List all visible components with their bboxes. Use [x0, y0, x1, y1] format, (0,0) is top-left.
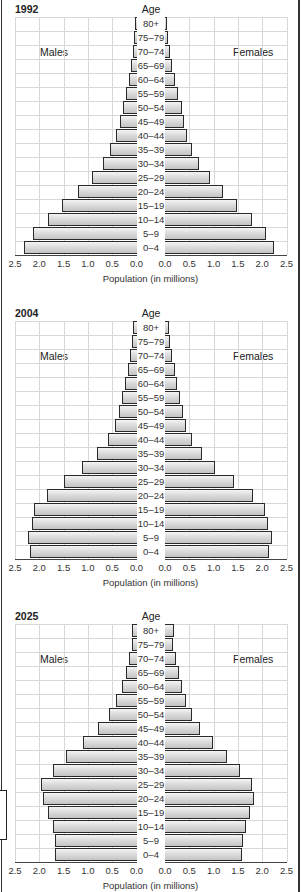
age-group-label: 60–64	[137, 680, 165, 694]
female-bar	[165, 433, 192, 446]
female-bar	[165, 517, 268, 530]
female-bar	[165, 489, 253, 502]
gridline-horizontal	[165, 59, 287, 60]
female-bar	[165, 45, 170, 58]
male-axis-tick: 0.0	[127, 562, 147, 573]
male-bar	[116, 694, 137, 707]
age-group-label: 40–44	[137, 129, 165, 143]
gridline-horizontal	[165, 101, 287, 102]
male-bar	[43, 792, 137, 805]
age-group-label: 20–24	[137, 185, 165, 199]
male-bar	[53, 764, 137, 777]
gridline-horizontal	[165, 638, 287, 639]
male-bar	[82, 461, 137, 474]
female-axis-tick: 0.5	[179, 865, 199, 876]
female-bar	[165, 405, 183, 418]
age-group-label: 80+	[137, 17, 165, 31]
male-axis-tick: 2.0	[29, 865, 49, 876]
female-bar	[165, 241, 274, 254]
gridline-horizontal	[165, 405, 287, 406]
female-bar	[165, 475, 234, 488]
gridline-horizontal	[165, 73, 287, 74]
male-bar	[33, 227, 137, 240]
age-group-label: 30–34	[137, 157, 165, 171]
male-bar	[34, 503, 137, 516]
female-axis-tick: 0.0	[155, 562, 175, 573]
age-group-label: 25–29	[137, 475, 165, 489]
female-bar	[165, 31, 168, 44]
gridline-horizontal	[15, 17, 137, 18]
age-group-label: 5–9	[137, 834, 165, 848]
gridline-horizontal	[15, 45, 137, 46]
gridline-horizontal	[15, 377, 137, 378]
male-bar	[103, 157, 137, 170]
age-group-label: 35–39	[137, 143, 165, 157]
male-bar	[129, 652, 137, 665]
male-bar	[110, 143, 137, 156]
pyramid-panel-2004: 2004AgeMalesFemales80+75–7970–7465–6960–…	[0, 304, 301, 594]
female-axis-tick: 1.0	[204, 865, 224, 876]
male-axis-tick: 0.5	[102, 258, 122, 269]
age-group-label: 35–39	[137, 447, 165, 461]
male-axis-tick: 1.5	[54, 258, 74, 269]
male-bar	[28, 531, 137, 544]
age-group-label: 75–79	[137, 31, 165, 45]
panel-year-title: 2004	[15, 307, 38, 319]
gridline-horizontal	[165, 45, 287, 46]
male-axis-tick: 1.5	[54, 865, 74, 876]
female-bar	[165, 722, 200, 735]
gridline-horizontal	[165, 391, 287, 392]
female-axis-tick: 2.0	[252, 562, 272, 573]
age-group-label: 70–74	[137, 652, 165, 666]
female-bar	[165, 101, 182, 114]
gridline-horizontal	[165, 17, 287, 18]
x-axis-title: Population (in millions)	[0, 577, 301, 588]
male-bar	[83, 736, 137, 749]
female-bar	[165, 17, 167, 30]
male-axis-tick: 1.0	[78, 562, 98, 573]
male-bar	[48, 213, 137, 226]
male-bar	[62, 199, 137, 212]
age-group-label: 0–4	[137, 241, 165, 255]
gridline-vertical	[15, 624, 16, 862]
age-group-label: 35–39	[137, 750, 165, 764]
female-bar	[165, 694, 186, 707]
female-bar	[165, 624, 174, 637]
panel-year-title: 1992	[15, 3, 38, 15]
female-axis-tick: 2.5	[277, 865, 297, 876]
age-group-label: 15–19	[137, 806, 165, 820]
female-bar	[165, 792, 254, 805]
gridline-horizontal	[165, 377, 287, 378]
male-axis-tick: 0.5	[102, 562, 122, 573]
female-bar	[165, 666, 179, 679]
female-bar	[165, 834, 243, 847]
age-group-label: 70–74	[137, 45, 165, 59]
male-bar	[32, 517, 137, 530]
male-bar	[123, 101, 137, 114]
male-x-axis	[15, 862, 137, 863]
age-group-label: 80+	[137, 321, 165, 335]
gridline-vertical	[15, 321, 16, 559]
female-axis-tick: 0.5	[179, 258, 199, 269]
male-bar	[126, 666, 137, 679]
age-group-label: 65–69	[137, 363, 165, 377]
female-bar	[165, 363, 175, 376]
gridline-horizontal	[165, 652, 287, 653]
male-bar	[30, 545, 137, 558]
male-axis-tick: 2.0	[29, 562, 49, 573]
male-bar	[97, 447, 137, 460]
gridline-horizontal	[165, 31, 287, 32]
side-bracket	[0, 790, 7, 840]
female-axis-tick: 0.0	[155, 258, 175, 269]
age-group-label: 15–19	[137, 503, 165, 517]
female-axis-tick: 2.5	[277, 258, 297, 269]
female-bar	[165, 171, 210, 184]
age-group-label: 10–14	[137, 820, 165, 834]
age-group-label: 10–14	[137, 517, 165, 531]
female-bar	[165, 545, 269, 558]
gridline-horizontal	[15, 652, 137, 653]
gridline-horizontal	[15, 666, 137, 667]
female-bar	[165, 638, 173, 651]
age-group-label: 0–4	[137, 545, 165, 559]
male-bar	[92, 171, 137, 184]
